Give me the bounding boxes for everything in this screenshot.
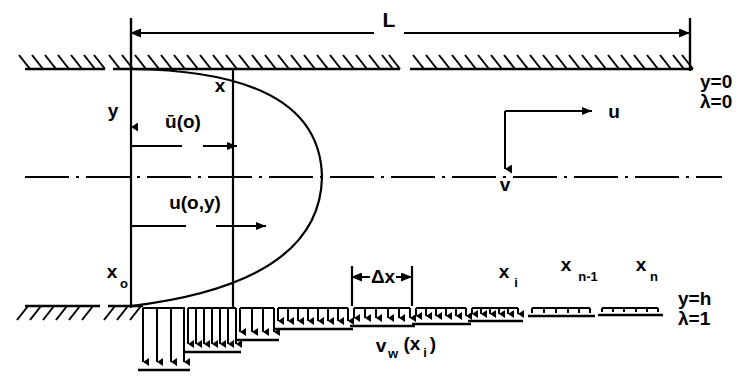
length-dimension-group: L — [131, 8, 690, 71]
velocity-profile-curve — [131, 69, 322, 306]
station-n-label: x — [636, 254, 647, 275]
suction-group-8 — [528, 308, 595, 316]
wall-velocity-label: v — [376, 335, 387, 356]
suction-group-6 — [412, 308, 471, 324]
figure-canvas: L — [0, 0, 756, 388]
bottom-wall-group — [17, 306, 143, 320]
profile-velocity-label: u(o,y) — [169, 192, 221, 213]
station-i-label-sub: i — [514, 275, 518, 290]
bottom-wall-y-label: y=h — [678, 288, 711, 309]
y-axis-group: y — [108, 95, 131, 127]
suction-group-1 — [138, 308, 190, 370]
wall-velocity-label-sub: w — [387, 346, 399, 361]
length-dimension-label: L — [383, 8, 396, 31]
suction-group-4 — [274, 308, 353, 329]
delta-x-label: Δx — [371, 266, 396, 287]
suction-group-5 — [350, 308, 415, 326]
u-component-label: u — [608, 101, 620, 122]
station-n-label-sub: n — [650, 269, 658, 284]
suction-group-2 — [183, 308, 241, 352]
top-wall-y-label: y=0 — [700, 71, 732, 92]
wall-suction-group — [138, 308, 663, 370]
mean-velocity-label: ū(o) — [165, 111, 201, 132]
wall-velocity-label-group: v w (x i ) — [376, 333, 436, 361]
wall-velocity-arg-sub: i — [423, 345, 427, 360]
wall-velocity-arg-close: ) — [430, 333, 436, 354]
top-wall-lambda-label: λ=0 — [700, 91, 732, 112]
flow-diagram: L — [0, 0, 756, 388]
suction-group-7 — [468, 308, 523, 321]
boundary-labels-group: y=0 λ=0 y=h λ=1 — [678, 71, 732, 329]
delta-x-group: Δx — [352, 266, 412, 306]
top-wall-group — [19, 55, 693, 69]
y-axis-label: y — [108, 100, 119, 121]
top-wall-hatching — [19, 55, 693, 69]
station-labels-group: x i x n-1 x n — [499, 254, 658, 290]
wall-velocity-arg: (x — [404, 333, 421, 354]
suction-group-3 — [236, 308, 279, 340]
velocity-profile-group — [131, 69, 322, 306]
v-component-label: v — [500, 174, 511, 195]
bottom-wall-hatching — [17, 306, 141, 320]
x-station-group: x — [215, 69, 233, 308]
station-nm1-label-sub: n-1 — [578, 269, 598, 284]
coordinate-triad-group: u v — [500, 101, 620, 195]
inlet-station-label: x — [107, 261, 118, 282]
inlet-station-label-sub: o — [120, 276, 128, 291]
bottom-wall-lambda-label: λ=1 — [678, 308, 711, 329]
profile-velocity-group: u(o,y) — [131, 192, 266, 226]
station-nm1-label: x — [561, 254, 572, 275]
mean-velocity-group: ū(o) — [131, 111, 237, 146]
suction-group-9 — [598, 308, 663, 315]
station-i-label: x — [499, 261, 510, 282]
